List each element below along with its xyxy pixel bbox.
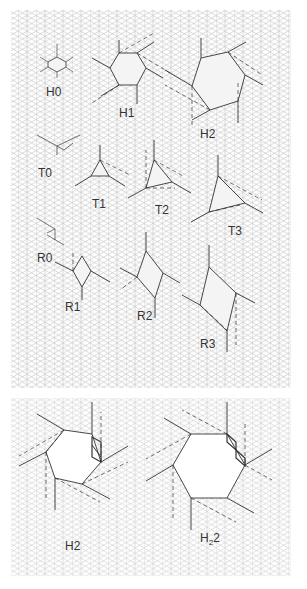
label-t1: T1 (92, 197, 106, 211)
label-h0: H0 (46, 85, 62, 99)
label-h2-right-main: H (200, 531, 209, 545)
label-h2-right-suffix: 2 (213, 531, 220, 545)
top-panel-svg: H0 H1 H2 T0 T1 T2 T3 R0 R1 R2 R3 (0, 0, 307, 392)
top-panel: H0 H1 H2 T0 T1 T2 T3 R0 R1 R2 R3 (0, 0, 307, 392)
label-r2: R2 (137, 309, 153, 323)
label-h2: H2 (200, 127, 216, 141)
label-r0: R0 (37, 251, 53, 265)
label-t3: T3 (228, 224, 242, 238)
bottom-panel: H2 H22 (0, 392, 307, 589)
label-h2-left: H2 (65, 539, 81, 553)
grid-bottom (11, 398, 291, 576)
label-r1: R1 (65, 300, 81, 314)
label-h1: H1 (119, 106, 135, 120)
label-r3: R3 (200, 337, 216, 351)
bottom-panel-svg: H2 H22 (0, 392, 307, 589)
label-t2: T2 (155, 203, 169, 217)
label-t0: T0 (38, 166, 52, 180)
